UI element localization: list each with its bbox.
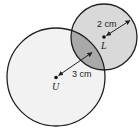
radius-label-l: 2 cm xyxy=(97,19,117,29)
center-label-u: U xyxy=(52,81,60,92)
radius-label-u: 3 cm xyxy=(72,69,92,79)
center-label-l: L xyxy=(100,40,107,51)
overlapping-circles-diagram: 3 cm 2 cm U L xyxy=(0,0,139,129)
center-point-l xyxy=(102,35,106,39)
center-point-u xyxy=(54,76,58,80)
